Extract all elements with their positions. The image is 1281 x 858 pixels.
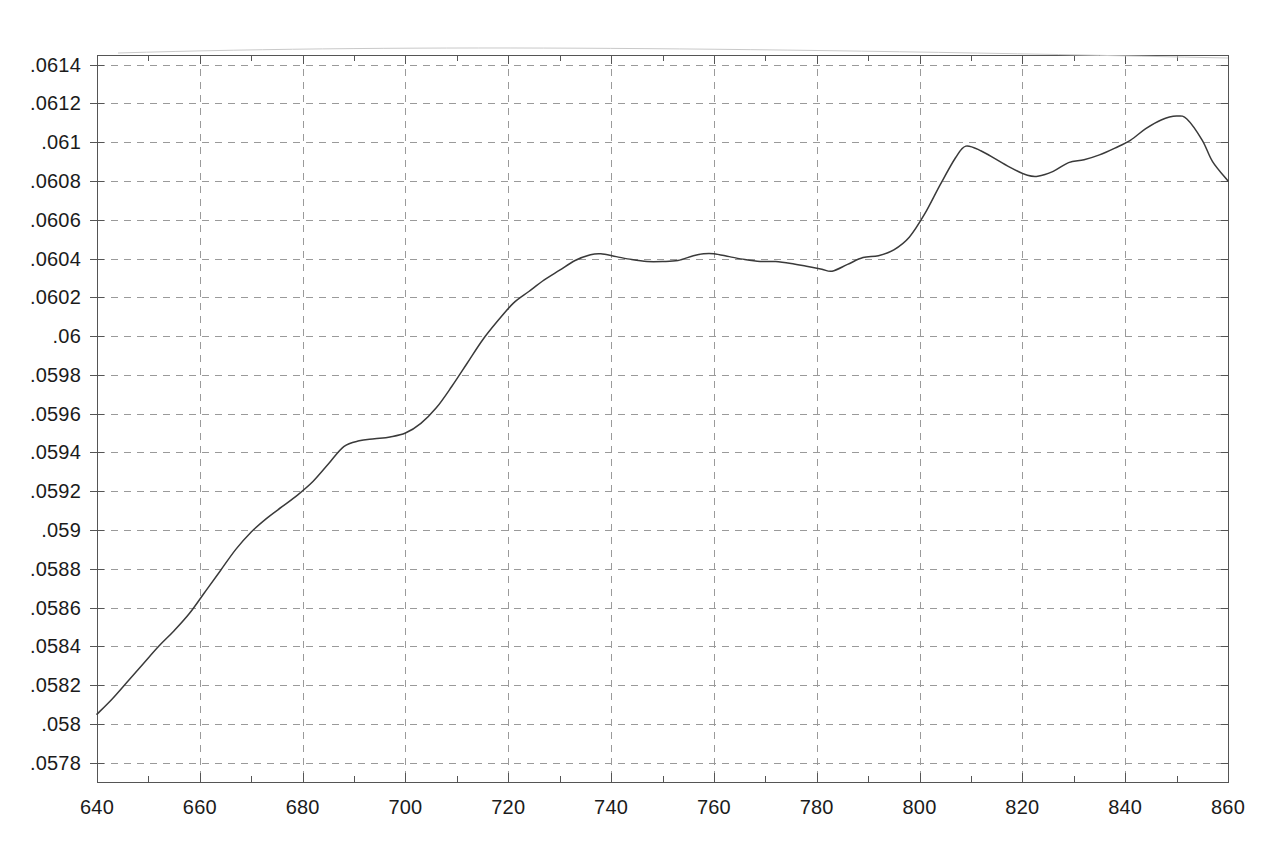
x-axis-tick-label: 700 <box>388 796 422 819</box>
y-axis-tick-label: .0588 <box>0 557 81 580</box>
y-axis-tick-label: .0606 <box>0 208 81 231</box>
scan-edge-artifact <box>118 48 1228 58</box>
y-axis-tick-label: .059 <box>0 518 81 541</box>
y-axis-tick-label: .0592 <box>0 480 81 503</box>
plot-frame <box>98 56 1229 783</box>
x-axis-tick-label: 780 <box>800 796 834 819</box>
y-axis-tick-label: .0578 <box>0 751 81 774</box>
y-axis-tick-label: .0584 <box>0 635 81 658</box>
line-chart-plot <box>0 0 1281 858</box>
y-axis-tick-label: .0612 <box>0 92 81 115</box>
x-axis-tick-label: 680 <box>286 796 320 819</box>
x-axis-tick-label: 720 <box>491 796 525 819</box>
x-axis-tick-label: 820 <box>1005 796 1039 819</box>
tick-marks <box>90 55 1229 782</box>
x-axis-tick-label: 800 <box>903 796 937 819</box>
grid-lines <box>98 56 1229 781</box>
x-axis-tick-label: 660 <box>183 796 217 819</box>
y-axis-tick-label: .0582 <box>0 674 81 697</box>
x-axis-tick-label: 640 <box>80 796 114 819</box>
y-axis-tick-label: .0596 <box>0 402 81 425</box>
x-axis-tick-label: 840 <box>1108 796 1142 819</box>
y-axis-tick-label: .0594 <box>0 441 81 464</box>
y-axis-tick-label: .0614 <box>0 53 81 76</box>
chart-figure: .0614.0612.061.0608.0606.0604.0602.06.05… <box>0 0 1281 858</box>
x-axis-tick-label: 860 <box>1211 796 1245 819</box>
y-axis-tick-label: .061 <box>0 131 81 154</box>
y-axis-tick-label: .06 <box>0 325 81 348</box>
y-axis-tick-label: .0586 <box>0 596 81 619</box>
x-axis-tick-label: 760 <box>697 796 731 819</box>
y-axis-tick-label: .0598 <box>0 363 81 386</box>
y-axis-tick-label: .0608 <box>0 170 81 193</box>
y-axis-tick-label: .0604 <box>0 247 81 270</box>
y-axis-tick-label: .058 <box>0 712 81 735</box>
y-axis-tick-label: .0602 <box>0 286 81 309</box>
x-axis-tick-label: 740 <box>594 796 628 819</box>
data-series-curve <box>97 116 1228 714</box>
